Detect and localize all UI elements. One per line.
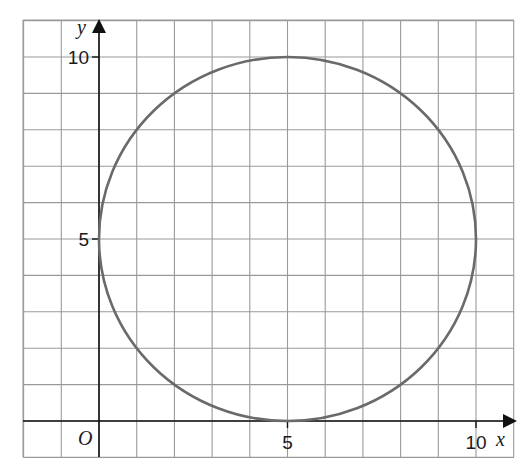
y-tick-label: 10 (68, 47, 89, 68)
x-tick-label: 5 (282, 432, 293, 453)
x-axis-label: x (495, 428, 505, 450)
tick-labels: 510510 (68, 47, 487, 453)
origin-label: O (78, 427, 92, 449)
y-axis-label: y (75, 16, 86, 39)
axes (23, 19, 517, 457)
y-tick-label: 5 (78, 229, 89, 250)
x-tick-label: 10 (465, 432, 486, 453)
x-axis-arrow-icon (503, 414, 517, 428)
circle-graph: x y O 510510 (0, 0, 532, 474)
ticks (92, 57, 476, 428)
